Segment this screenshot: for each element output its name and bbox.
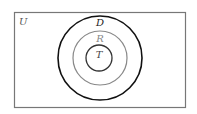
set-t-label: T bbox=[96, 49, 104, 60]
set-d-label: D bbox=[95, 17, 104, 28]
set-r-label: R bbox=[95, 33, 104, 44]
venn-diagram: U D R T bbox=[0, 0, 197, 114]
universe-label: U bbox=[19, 16, 28, 27]
